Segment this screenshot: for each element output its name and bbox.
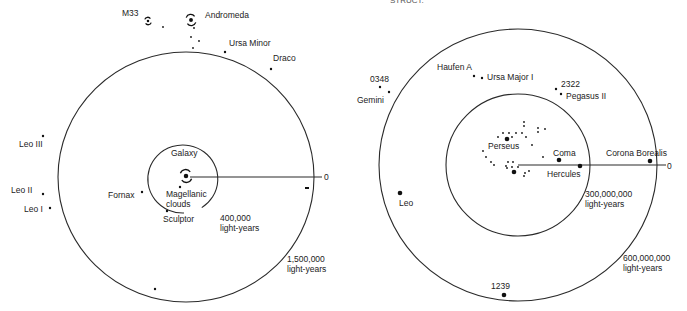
fornax-dot-icon — [141, 191, 143, 193]
minor-galaxy-dot — [198, 40, 200, 42]
2322-label: 2322 — [561, 79, 580, 89]
m33-galaxy-icon — [145, 17, 151, 24]
perseus-label: Perseus — [488, 141, 519, 151]
0348-label: 0348 — [370, 74, 389, 84]
minor-galaxy-dot — [537, 131, 539, 133]
object-cluster-center — [512, 170, 517, 175]
minor-galaxy-dot — [512, 161, 514, 163]
object-pegasus-ii: Pegasus II — [560, 91, 606, 101]
object-coma: Coma — [553, 148, 576, 162]
inner-ring-300m-label-line-1: 300,000,000 — [585, 189, 633, 199]
draco-label: Draco — [273, 53, 296, 63]
hercules-label: Hercules — [547, 169, 581, 179]
axis-end-label: 0 — [324, 172, 329, 182]
outer-ring-600m-label-line-1: 600,000,000 — [623, 253, 671, 263]
object-ursa-minor: Ursa Minor — [224, 38, 271, 53]
outer-ring-1.5m-label-line-2: light-years — [287, 264, 326, 274]
minor-galaxy-dot — [511, 136, 513, 138]
leo-ii-dot-icon — [42, 193, 44, 195]
object-leo-i: Leo I — [24, 204, 51, 214]
diagram-canvas: STRUCT. 400,000light-years1,500,000light… — [0, 0, 687, 311]
axis-end-label: 0 — [667, 161, 672, 171]
minor-galaxy-dot — [521, 132, 523, 134]
object-gemini: Gemini — [357, 91, 390, 105]
minor-galaxy-dot — [193, 27, 195, 29]
minor-galaxy-dot — [502, 132, 504, 134]
haufen-a-dot-icon — [473, 75, 475, 77]
object-m33: M33 — [122, 8, 151, 25]
minor-galaxy-dot — [542, 156, 544, 158]
pegasus-ii-dot-icon — [560, 93, 562, 95]
minor-galaxy-dot — [525, 136, 527, 138]
inner-ring-400k-label-line-2: light-years — [220, 223, 259, 233]
coma-dot-icon — [557, 158, 562, 163]
ursa-minor-label: Ursa Minor — [229, 38, 271, 48]
inner-ring-400k-label-line-1: 400,000 — [220, 213, 251, 223]
minor-galaxy-dot — [493, 164, 495, 166]
minor-galaxy-dot — [508, 132, 510, 134]
minor-galaxy-dot — [524, 172, 526, 174]
minor-galaxy-dot — [537, 127, 539, 129]
sculptor-dot-icon — [166, 210, 168, 212]
minor-galaxy-dot — [490, 161, 492, 163]
magellanic-clouds-label-line-2: clouds — [166, 199, 191, 209]
object-fornax: Fornax — [108, 190, 143, 200]
object-ursa-major-i: Ursa Major I — [481, 72, 533, 82]
object-unnamed-bottom — [154, 288, 156, 290]
milky-way-galaxy-icon — [180, 169, 191, 182]
leo-iii-dot-icon — [42, 135, 44, 137]
minor-galaxy-dot — [517, 166, 519, 168]
minor-galaxy-dot — [523, 175, 525, 177]
object-andromeda: Andromeda — [186, 10, 249, 26]
minor-galaxy-dot — [507, 161, 509, 163]
corona-borealis-dot-icon — [648, 159, 653, 164]
outer-ring-600m-label-line-2: light-years — [623, 263, 662, 273]
magellanic-clouds-dot-icon — [179, 186, 181, 188]
coma-label: Coma — [553, 148, 576, 158]
local-group-diagram: 400,000light-years1,500,000light-years0G… — [11, 8, 329, 302]
minor-galaxy-dot — [505, 165, 507, 167]
minor-galaxy-dot — [531, 144, 533, 146]
object-leo-ii: Leo II — [11, 185, 44, 195]
andromeda-label: Andromeda — [205, 10, 249, 20]
haufen-a-label: Haufen A — [437, 62, 472, 72]
m33-label: M33 — [122, 8, 139, 18]
0348-dot-icon — [379, 86, 381, 88]
minor-galaxy-dot — [162, 26, 164, 28]
minor-galaxy-dot — [506, 167, 508, 169]
leo-label: Leo — [399, 198, 413, 208]
distance-scale-diagram: STRUCT. 400,000light-years1,500,000light… — [0, 0, 687, 311]
leo-dot-icon — [398, 191, 403, 196]
object-hercules: Hercules — [547, 164, 582, 179]
minor-galaxy-dot — [544, 128, 546, 130]
pegasus-ii-label: Pegasus II — [566, 91, 606, 101]
object-sculptor: Sculptor — [163, 210, 194, 224]
minor-galaxy-dot — [482, 150, 484, 152]
object-perseus: Perseus — [488, 137, 519, 151]
minor-galaxy-dot — [523, 121, 525, 123]
object-corona-borealis: Corona Borealis — [606, 148, 667, 163]
leo-iii-label: Leo III — [19, 139, 43, 149]
andromeda-galaxy-icon — [186, 14, 196, 25]
object-draco: Draco — [270, 53, 296, 70]
object-0348: 0348 — [370, 74, 389, 88]
cropped-header-text: STRUCT. — [390, 0, 424, 5]
cluster-center-dot-icon — [512, 170, 517, 175]
object-1239: 1239 — [491, 281, 510, 297]
minor-galaxy-dot — [515, 132, 517, 134]
ursa-minor-dot-icon — [224, 51, 226, 53]
minor-galaxy-dot — [511, 166, 513, 168]
ursa-major-i-dot-icon — [481, 77, 483, 79]
galaxy-label: Galaxy — [171, 148, 198, 158]
object-leo-iii: Leo III — [19, 135, 44, 149]
minor-galaxy-dot — [528, 170, 530, 172]
fornax-label: Fornax — [108, 190, 135, 200]
leo-i-dot-icon — [49, 207, 51, 209]
minor-galaxy-dot — [190, 36, 192, 38]
minor-galaxy-dot — [523, 125, 525, 127]
gemini-dot-icon — [388, 91, 390, 93]
corona-borealis-label: Corona Borealis — [606, 148, 667, 158]
inner-ring-300m-label-line-2: light-years — [585, 199, 624, 209]
2322-dot-icon — [555, 88, 557, 90]
minor-galaxy-dot — [497, 136, 499, 138]
